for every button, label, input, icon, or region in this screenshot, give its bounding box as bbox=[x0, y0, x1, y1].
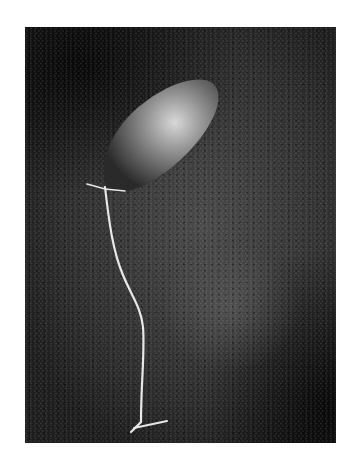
balloon-photo bbox=[25, 27, 336, 443]
string bbox=[87, 184, 167, 432]
balloon-illustration bbox=[25, 27, 336, 443]
balloon bbox=[104, 80, 219, 193]
